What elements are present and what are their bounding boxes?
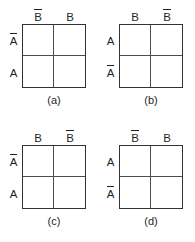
col-label: B <box>33 130 43 145</box>
row-label: A <box>9 33 19 48</box>
kmap-cell <box>54 56 85 87</box>
column-labels: B B <box>119 129 183 144</box>
col-label-slot: B <box>151 8 183 23</box>
col-label: B <box>65 9 75 24</box>
row-label: A <box>106 65 116 80</box>
column-labels: B B <box>22 129 86 144</box>
kmap-cell <box>151 25 182 56</box>
kmap-cell <box>120 177 151 208</box>
row-labels: A A <box>5 24 22 88</box>
kmap-caption: (c) <box>22 215 86 227</box>
kmap-body: A A <box>102 24 195 88</box>
kmap-cell <box>151 146 182 177</box>
kmap-grid <box>119 24 183 88</box>
kmap-cell <box>23 177 54 208</box>
col-label-slot: B <box>22 129 54 144</box>
kmap-figure-a: B B A A (a) <box>0 0 97 121</box>
kmap-caption: (a) <box>22 94 86 106</box>
kmap-grid <box>22 145 86 209</box>
kmap-figure-d: B B A A (d) <box>97 121 195 242</box>
col-label: B <box>130 9 140 24</box>
col-label-slot: B <box>119 8 151 23</box>
row-label: A <box>9 65 19 80</box>
kmap-figure-sheet: B B A A (a) B B <box>0 0 195 242</box>
kmap-cell <box>120 25 151 56</box>
kmap-cell <box>23 146 54 177</box>
col-label: B <box>65 130 75 145</box>
row-labels: A A <box>102 24 119 88</box>
kmap-cell <box>120 56 151 87</box>
col-label-slot: B <box>54 8 86 23</box>
row-label: A <box>9 154 19 169</box>
col-label: B <box>162 9 172 24</box>
column-labels: B B <box>22 8 86 23</box>
kmap-figure-c: B B A A (c) <box>0 121 97 242</box>
col-label: B <box>33 9 43 24</box>
col-label: B <box>130 130 140 145</box>
kmap-body: A A <box>102 145 195 209</box>
kmap-grid <box>22 24 86 88</box>
kmap-cell <box>151 56 182 87</box>
row-labels: A A <box>102 145 119 209</box>
col-label-slot: B <box>119 129 151 144</box>
kmap-body: A A <box>5 145 97 209</box>
col-label: B <box>162 130 172 145</box>
kmap-cell <box>54 146 85 177</box>
kmap-caption: (d) <box>119 215 183 227</box>
col-label-slot: B <box>22 8 54 23</box>
row-label: A <box>9 186 19 201</box>
row-label: A <box>106 186 116 201</box>
kmap-cell <box>23 56 54 87</box>
kmap-cell <box>54 25 85 56</box>
kmap-cell <box>120 146 151 177</box>
col-label-slot: B <box>54 129 86 144</box>
kmap-cell <box>54 177 85 208</box>
kmap-caption: (b) <box>119 94 183 106</box>
kmap-cell <box>151 177 182 208</box>
column-labels: B B <box>119 8 183 23</box>
row-label: A <box>106 154 116 169</box>
row-label: A <box>106 33 116 48</box>
row-labels: A A <box>5 145 22 209</box>
kmap-grid <box>119 145 183 209</box>
col-label-slot: B <box>151 129 183 144</box>
kmap-cell <box>23 25 54 56</box>
kmap-body: A A <box>5 24 97 88</box>
kmap-figure-b: B B A A (b) <box>97 0 195 121</box>
